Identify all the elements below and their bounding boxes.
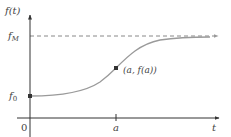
origin-label: 0 — [21, 122, 27, 133]
logistic-curve — [30, 37, 210, 96]
x-tick-a-label: a — [113, 122, 119, 133]
f-zero-point — [28, 94, 32, 98]
logistic-diagram: f(t) fM f0 0 a t (a, f(a)) — [0, 0, 231, 137]
y-axis-label: f(t) — [4, 5, 21, 16]
point-label: (a, f(a)) — [123, 65, 157, 75]
f-zero-label: f0 — [8, 90, 17, 103]
f-max-label: fM — [7, 30, 20, 43]
x-axis-label: t — [212, 122, 217, 133]
inflection-point — [114, 66, 118, 70]
